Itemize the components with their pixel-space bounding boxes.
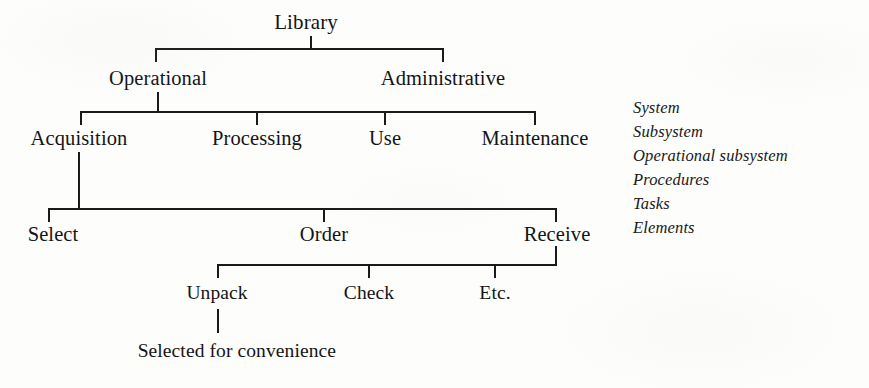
node-acquisition: Acquisition xyxy=(31,128,128,149)
legend-item-procedures: Procedures xyxy=(633,172,709,189)
node-order: Order xyxy=(300,224,348,245)
connector-use-drop xyxy=(384,111,386,125)
connector-administrative-drop xyxy=(442,48,444,62)
legend-item-subsystem: Subsystem xyxy=(633,124,703,141)
connector-check-drop xyxy=(368,264,370,278)
connector-etc-drop xyxy=(494,264,496,278)
node-maintenance: Maintenance xyxy=(482,128,589,149)
connector-unpack-drop xyxy=(217,264,219,278)
diagram-canvas: Library Operational Administrative Acqui… xyxy=(0,0,869,388)
connector-level4-bar xyxy=(217,264,557,266)
connector-operational-stem xyxy=(157,92,159,113)
node-etc: Etc. xyxy=(479,283,510,303)
legend-item-system: System xyxy=(633,100,680,117)
node-selected-for-convenience: Selected for convenience xyxy=(138,341,336,361)
connector-operational-drop xyxy=(155,48,157,62)
connector-acquisition-stem xyxy=(78,152,80,210)
connector-processing-drop xyxy=(256,111,258,125)
node-administrative: Administrative xyxy=(381,68,505,89)
node-operational: Operational xyxy=(109,68,207,89)
connector-acquisition-drop xyxy=(80,111,82,125)
connector-unpack-stem xyxy=(217,309,219,333)
connector-order-drop xyxy=(323,208,325,222)
connector-level2-bar xyxy=(80,111,536,113)
connector-level1-bar xyxy=(155,48,444,50)
connector-select-drop xyxy=(48,208,50,222)
connector-receive-drop xyxy=(555,208,557,222)
connector-maintenance-drop xyxy=(534,111,536,125)
legend-item-tasks: Tasks xyxy=(633,196,670,213)
connector-receive-stem xyxy=(555,246,557,266)
legend-item-operational-subsystem: Operational subsystem xyxy=(633,148,788,165)
node-processing: Processing xyxy=(212,128,302,149)
node-use: Use xyxy=(369,128,401,149)
connector-level3-bar xyxy=(48,208,557,210)
node-unpack: Unpack xyxy=(186,283,247,303)
node-select: Select xyxy=(28,224,79,245)
node-check: Check xyxy=(344,283,394,303)
node-library: Library xyxy=(274,12,338,33)
node-receive: Receive xyxy=(524,224,591,245)
legend-item-elements: Elements xyxy=(633,220,695,237)
